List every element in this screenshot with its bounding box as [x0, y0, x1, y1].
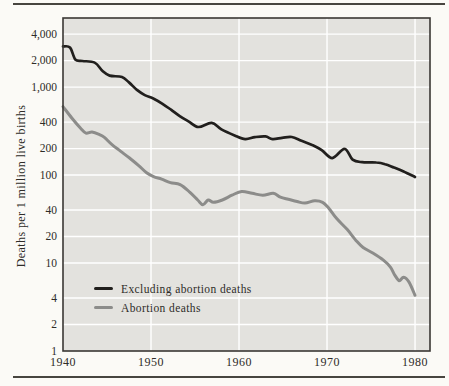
y-tick-label: 10: [46, 257, 58, 269]
y-tick-label: 2: [51, 318, 57, 330]
x-tick-label: 1980: [402, 355, 428, 369]
y-tick-label: 400: [40, 116, 58, 128]
gray-line-swatch: [94, 306, 113, 309]
y-tick-label: 4: [51, 292, 57, 304]
legend-label-excluding-abortion-deaths: Excluding abortion deaths: [121, 283, 252, 295]
maternal-mortality-log-chart: 4,0002,0001,0004002001004020104211940195…: [0, 0, 449, 386]
y-tick-label: 100: [40, 169, 58, 181]
black-line-swatch: [94, 287, 113, 290]
legend: Excluding abortion deaths Abortion death…: [94, 279, 252, 317]
y-tick-label: 2,000: [31, 54, 57, 67]
y-tick-label: 1,000: [31, 81, 57, 94]
bottom-rule: [13, 376, 445, 378]
y-tick-label: 4,000: [31, 28, 57, 41]
x-tick-label: 1970: [314, 355, 340, 369]
y-tick-label: 200: [40, 142, 58, 154]
legend-item-excluding-abortion-deaths: Excluding abortion deaths: [94, 279, 252, 298]
legend-label-abortion-deaths: Abortion deaths: [121, 302, 201, 314]
y-tick-label: 20: [46, 230, 58, 242]
y-tick-label: 40: [46, 204, 58, 216]
chart-svg: 4,0002,0001,0004002001004020104211940195…: [0, 0, 449, 386]
x-tick-label: 1960: [226, 355, 252, 369]
x-tick-label: 1940: [50, 355, 76, 369]
legend-item-abortion-deaths: Abortion deaths: [94, 298, 252, 317]
y-axis-title: Deaths per 1 million live births: [14, 105, 29, 267]
x-tick-label: 1950: [138, 355, 164, 369]
